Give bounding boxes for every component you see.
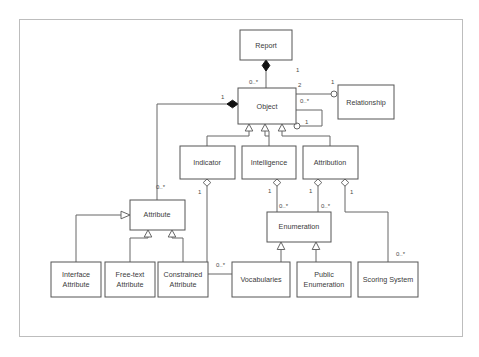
class-label-report: Report (255, 41, 277, 50)
class-label-interface-attribute-line1: Interface (62, 270, 90, 279)
class-label-interface-attribute-line2: Attribute (63, 280, 90, 289)
class-label-constrained-attribute-line1: Constrained (164, 270, 203, 279)
class-label-relationship: Relationship (346, 98, 386, 107)
class-node-scoring-system[interactable]: Scoring System (358, 262, 418, 297)
multiplicity-attribution-enumeration-target: 0..* (321, 203, 331, 209)
class-label-vocabularies: Vocabularies (240, 275, 282, 284)
multiplicity-intelligence-enumeration-target: 0..* (279, 203, 289, 209)
class-node-vocabularies[interactable]: Vocabularies (232, 262, 290, 297)
class-node-interface-attribute[interactable]: Interface Attribute (51, 262, 101, 297)
multiplicity-report-object-target: 0..* (249, 79, 259, 85)
class-node-object[interactable]: Object (238, 88, 296, 124)
multiplicity-object-self-source: 0..* (300, 98, 310, 104)
multiplicity-attribution-scoring-target: 0..* (396, 251, 406, 257)
association-end-relationship (331, 91, 337, 97)
class-label-intelligence: Intelligence (251, 158, 287, 167)
class-label-scoring-system: Scoring System (363, 275, 413, 284)
diagram-canvas: Report Object Relationship Indicator Int… (0, 0, 479, 357)
class-label-indicator: Indicator (193, 158, 221, 167)
class-node-constrained-attribute[interactable]: Constrained Attribute (158, 262, 208, 297)
class-label-public-enumeration-line2: Enumeration (304, 280, 345, 289)
class-node-intelligence[interactable]: Intelligence (242, 146, 296, 179)
class-label-attribution: Attribution (314, 158, 346, 167)
class-node-indicator[interactable]: Indicator (180, 146, 235, 179)
class-node-attribution[interactable]: Attribution (303, 146, 358, 179)
class-label-constrained-attribute-line2: Attribute (170, 280, 197, 289)
class-label-object: Object (257, 102, 278, 111)
class-node-public-enumeration[interactable]: Public Enumeration (297, 262, 351, 297)
class-node-free-text-attribute[interactable]: Free-text Attribute (105, 262, 155, 297)
multiplicity-indicator-vocabularies-target: 0..* (216, 262, 226, 268)
class-label-enumeration: Enumeration (279, 222, 320, 231)
class-label-free-text-attribute-line1: Free-text (116, 270, 145, 279)
class-label-free-text-attribute-line2: Attribute (117, 280, 144, 289)
class-node-report[interactable]: Report (240, 30, 292, 60)
class-node-enumeration[interactable]: Enumeration (267, 212, 331, 242)
class-label-attribute: Attribute (144, 210, 171, 219)
class-node-attribute[interactable]: Attribute (130, 200, 185, 230)
multiplicity-attribute-object-source: 0..* (156, 184, 166, 190)
class-label-public-enumeration-line1: Public (314, 270, 334, 279)
class-node-relationship[interactable]: Relationship (338, 85, 394, 119)
uml-class-diagram: Report Object Relationship Indicator Int… (0, 0, 479, 357)
